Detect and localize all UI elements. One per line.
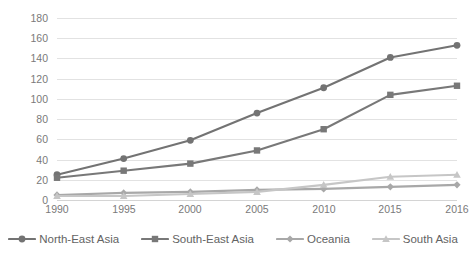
data-point-marker <box>320 84 327 91</box>
x-tick-label: 1990 <box>45 203 68 215</box>
legend-swatch-square-icon <box>141 233 169 245</box>
legend-item-oceania[interactable]: Oceania <box>276 233 350 246</box>
y-tick-label: 80 <box>2 114 48 125</box>
x-tick-label: 2005 <box>245 203 268 215</box>
y-axis: 020406080100120140160180 <box>0 18 52 200</box>
series-south-asia <box>53 171 461 199</box>
data-point-marker <box>454 83 460 89</box>
data-point-marker <box>120 167 126 173</box>
legend-item-south-asia[interactable]: South Asia <box>372 233 458 246</box>
data-point-marker <box>254 147 260 153</box>
series-south-east-asia <box>54 83 460 181</box>
x-axis-baseline <box>57 200 457 201</box>
data-point-marker <box>19 236 26 243</box>
data-point-marker <box>453 181 460 188</box>
data-point-marker <box>387 54 394 61</box>
plot-area <box>57 18 457 200</box>
legend-item-label: South-East Asia <box>172 233 254 246</box>
y-tick-label: 120 <box>2 74 48 85</box>
x-tick-label: 2010 <box>312 203 335 215</box>
y-tick-label: 60 <box>2 134 48 145</box>
data-point-marker <box>387 183 394 190</box>
legend-item-label: South Asia <box>403 233 458 246</box>
data-point-marker <box>454 42 461 49</box>
y-tick-label: 100 <box>2 94 48 105</box>
data-point-marker <box>320 126 326 132</box>
legend-item-label: Oceania <box>307 233 350 246</box>
series-line <box>57 86 457 178</box>
y-tick-label: 180 <box>2 13 48 24</box>
data-point-marker <box>152 236 158 242</box>
y-tick-label: 140 <box>2 53 48 64</box>
data-point-marker <box>286 235 293 242</box>
data-point-marker <box>54 175 60 181</box>
data-point-marker <box>187 137 194 144</box>
series-layer <box>57 18 457 200</box>
y-tick-label: 0 <box>2 195 48 206</box>
data-point-marker <box>120 155 127 162</box>
data-point-marker <box>187 160 193 166</box>
y-tick-label: 40 <box>2 155 48 166</box>
y-tick-label: 160 <box>2 33 48 44</box>
legend-item-label: North-East Asia <box>39 233 119 246</box>
x-tick-label: 2000 <box>178 203 201 215</box>
x-axis: 1990199520002005201020152016 <box>57 203 457 219</box>
y-tick-label: 20 <box>2 175 48 186</box>
x-tick-label: 1995 <box>112 203 135 215</box>
data-point-marker <box>254 110 261 117</box>
legend-swatch-triangle-icon <box>372 233 400 245</box>
legend-item-north-east-asia[interactable]: North-East Asia <box>8 233 119 246</box>
x-tick-label: 2016 <box>445 203 468 215</box>
legend-item-south-east-asia[interactable]: South-East Asia <box>141 233 254 246</box>
legend-swatch-diamond-icon <box>276 233 304 245</box>
chart-legend: North-East AsiaSouth-East AsiaOceaniaSou… <box>0 228 466 250</box>
data-point-marker <box>387 92 393 98</box>
legend-swatch-circle-icon <box>8 233 36 245</box>
series-north-east-asia <box>54 42 461 178</box>
x-tick-label: 2015 <box>378 203 401 215</box>
